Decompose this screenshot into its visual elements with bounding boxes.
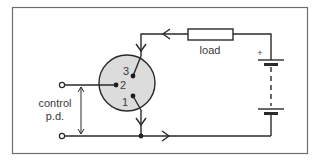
pin1-label: 1 [122, 96, 128, 108]
pin3-label: 3 [123, 65, 129, 77]
load-label: load [200, 44, 221, 56]
load-resistor [188, 29, 233, 40]
control-terminal-bottom [59, 133, 64, 138]
control-label-line2: p.d. [46, 110, 64, 122]
control-label-line1: control [38, 97, 71, 109]
control-terminal-top [59, 82, 64, 87]
bottom-wire [64, 113, 271, 136]
battery-positive-label: + [257, 48, 262, 58]
battery [258, 60, 284, 114]
pin2-label: 2 [120, 79, 126, 91]
circuit-diagram: load 3 2 1 control p.d. + [0, 0, 316, 164]
pin3-dot [131, 74, 136, 79]
diagram-frame [13, 8, 308, 154]
